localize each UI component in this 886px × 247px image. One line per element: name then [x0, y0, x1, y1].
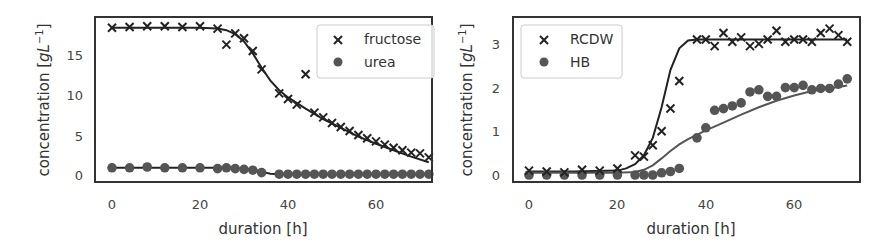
dot-marker — [701, 123, 711, 133]
y-tick: 3 — [492, 37, 500, 52]
dot-marker — [674, 164, 684, 174]
x-tick: 0 — [525, 197, 533, 212]
dot-marker — [195, 163, 205, 173]
x-marker — [773, 27, 781, 35]
x-tick: 0 — [108, 197, 116, 212]
x-tick: 20 — [609, 197, 626, 212]
dot-marker — [754, 85, 764, 95]
y-tick: 2 — [492, 81, 500, 96]
right-y-ticks: 0 1 2 3 — [492, 37, 500, 183]
dot-marker — [142, 162, 152, 172]
dot-marker — [639, 170, 649, 180]
dot-marker — [160, 163, 170, 173]
x-tick: 40 — [698, 197, 715, 212]
dot-marker — [248, 165, 258, 175]
dot-marker — [406, 169, 416, 179]
dot-marker — [318, 169, 328, 179]
dot-marker — [239, 165, 249, 175]
x-marker — [416, 149, 424, 157]
legend-rcdw: RCDW — [570, 31, 614, 47]
right-y-axis-label: concentration [gL−1] — [457, 23, 476, 176]
dot-marker — [336, 169, 346, 179]
left-plot: 0 20 40 60 0 5 10 15 duration [h] concen… — [34, 17, 434, 238]
right-x-axis-label: duration [h] — [646, 220, 735, 238]
dot-marker — [630, 170, 640, 180]
figure: 0 20 40 60 0 5 10 15 duration [h] concen… — [0, 0, 886, 247]
left-x-ticks: 0 20 40 60 — [108, 197, 384, 212]
dot-marker — [125, 163, 135, 173]
dot-marker — [763, 92, 773, 102]
legend-hb: HB — [570, 54, 590, 70]
x-marker — [407, 149, 415, 157]
x-marker — [719, 29, 727, 37]
dot-marker — [772, 92, 782, 102]
x-marker — [666, 105, 674, 113]
dot-marker — [834, 79, 844, 89]
x-marker — [755, 40, 763, 48]
x-tick: 20 — [192, 197, 209, 212]
x-marker — [826, 25, 834, 33]
dot-marker — [107, 163, 117, 173]
right-plot: 0 20 40 60 0 1 2 3 duration [h] concentr… — [457, 17, 860, 238]
dot-marker — [345, 169, 355, 179]
dot-marker — [354, 169, 364, 179]
dot-marker — [710, 106, 720, 116]
dot-marker — [257, 168, 267, 178]
dot-marker — [666, 167, 676, 177]
x-marker — [817, 29, 825, 37]
left-legend: fructose urea — [317, 25, 434, 78]
dot-marker — [178, 163, 188, 173]
dot-marker — [222, 163, 232, 173]
dot-marker — [310, 169, 320, 179]
left-y-ticks: 0 5 10 15 — [66, 48, 83, 183]
x-marker — [222, 41, 230, 49]
y-tick: 0 — [75, 168, 83, 183]
x-marker — [161, 22, 169, 30]
x-tick: 40 — [280, 197, 297, 212]
dot-marker — [789, 83, 799, 93]
dot-marker — [816, 84, 826, 94]
dot-marker — [825, 84, 835, 94]
dot-marker — [371, 169, 381, 179]
dot-marker — [648, 170, 658, 180]
x-marker — [834, 31, 842, 39]
x-tick: 60 — [786, 197, 803, 212]
y-tick: 0 — [492, 168, 500, 183]
dot-marker — [327, 169, 337, 179]
dot-marker — [283, 169, 293, 179]
dot-marker — [807, 85, 817, 95]
dot-marker — [657, 168, 667, 178]
y-tick: 5 — [75, 129, 83, 144]
legend-urea: urea — [364, 54, 396, 70]
x-tick: 60 — [368, 197, 385, 212]
dot-marker — [274, 169, 284, 179]
legend-fructose: fructose — [364, 31, 421, 47]
dot-marker-icon — [540, 58, 549, 67]
x-marker — [143, 22, 151, 30]
dot-marker — [389, 169, 399, 179]
y-tick: 10 — [66, 88, 83, 103]
left-x-axis-label: duration [h] — [218, 220, 307, 238]
dot-marker — [380, 169, 390, 179]
y-tick: 15 — [66, 48, 83, 63]
x-marker — [746, 42, 754, 50]
dot-marker — [842, 74, 852, 84]
x-marker — [675, 77, 683, 85]
dot-marker — [292, 169, 302, 179]
dot-marker — [736, 98, 746, 108]
x-marker — [843, 38, 851, 46]
dot-marker — [728, 101, 738, 111]
right-legend: RCDW HB — [521, 25, 622, 78]
dot-marker — [301, 169, 311, 179]
dot-marker — [213, 164, 223, 174]
dot-marker — [398, 169, 408, 179]
dot-marker-icon — [334, 58, 343, 67]
dot-marker — [415, 169, 425, 179]
dot-marker — [362, 169, 372, 179]
x-marker — [302, 70, 310, 78]
x-marker — [658, 127, 666, 135]
dot-marker — [745, 87, 755, 97]
left-y-axis-label: concentration [gL−1] — [34, 23, 53, 176]
dot-marker — [781, 83, 791, 93]
right-x-ticks: 0 20 40 60 — [525, 197, 802, 212]
